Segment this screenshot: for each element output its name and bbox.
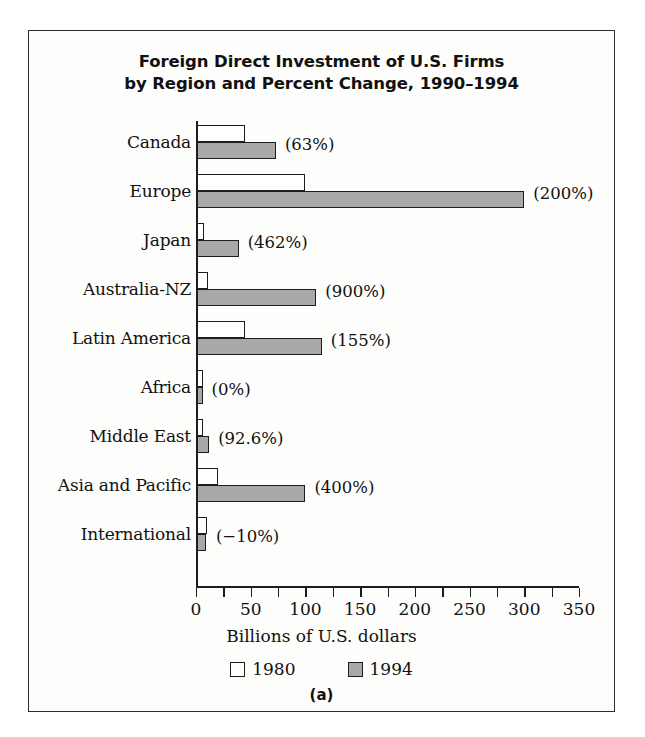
bar-1994: [196, 191, 524, 208]
x-axis-minor-tick: [552, 588, 553, 597]
percent-change-label: (92.6%): [218, 429, 283, 448]
category-row: Japan(462%): [29, 219, 614, 268]
bar-1980: [196, 321, 245, 338]
legend-label: 1994: [370, 659, 413, 679]
x-axis-major-tick: [524, 588, 525, 597]
category-row: Europe(200%): [29, 170, 614, 219]
legend-swatch-icon: [348, 662, 363, 677]
percent-change-label: (−10%): [216, 527, 279, 546]
x-axis-tick-label: 250: [453, 599, 485, 619]
category-label: Europe: [130, 181, 191, 201]
plot-area: Canada(63%)Europe(200%)Japan(462%)Austra…: [29, 121, 614, 586]
percent-change-label: (0%): [212, 380, 251, 399]
bar-1994: [196, 142, 276, 159]
x-axis-minor-tick: [278, 588, 279, 597]
legend-item: 1994: [348, 659, 413, 679]
x-axis-tick-label: 200: [399, 599, 431, 619]
category-row: Canada(63%): [29, 121, 614, 170]
category-label: Australia-NZ: [83, 279, 191, 299]
category-row: Asia and Pacific(400%): [29, 464, 614, 513]
legend-swatch-icon: [230, 662, 245, 677]
category-row: Australia-NZ(900%): [29, 268, 614, 317]
bar-1994: [196, 289, 316, 306]
category-label: Japan: [143, 230, 191, 250]
x-axis-tick-label: 50: [240, 599, 262, 619]
figure-frame: Foreign Direct Investment of U.S. Firms …: [28, 30, 615, 712]
x-axis-minor-tick: [223, 588, 224, 597]
category-row: Latin America(155%): [29, 317, 614, 366]
x-axis-tick-label: 350: [563, 599, 595, 619]
category-row: Africa(0%): [29, 366, 614, 415]
category-label: International: [81, 524, 191, 544]
category-label: Middle East: [90, 426, 191, 446]
x-axis-minor-tick: [497, 588, 498, 597]
x-axis-major-tick: [579, 588, 580, 597]
bar-group: (200%): [196, 174, 616, 215]
x-axis-tick-label: 0: [191, 599, 202, 619]
category-label: Canada: [127, 132, 191, 152]
bar-group: (63%): [196, 125, 616, 166]
category-row: International(−10%): [29, 513, 614, 562]
percent-change-label: (155%): [331, 331, 391, 350]
legend-item: 1980: [230, 659, 295, 679]
bar-group: (400%): [196, 468, 616, 509]
percent-change-label: (400%): [314, 478, 374, 497]
x-axis-major-tick: [415, 588, 416, 597]
chart-title-line-2: by Region and Percent Change, 1990–1994: [29, 73, 614, 95]
x-axis-minor-tick: [442, 588, 443, 597]
x-axis-major-tick: [251, 588, 252, 597]
chart-title: Foreign Direct Investment of U.S. Firms …: [29, 51, 614, 95]
bar-group: (−10%): [196, 517, 616, 558]
category-label: Latin America: [72, 328, 191, 348]
x-axis-minor-tick: [333, 588, 334, 597]
x-axis-major-tick: [196, 588, 197, 597]
category-label: Asia and Pacific: [58, 475, 191, 495]
bar-group: (462%): [196, 223, 616, 264]
legend: 19801994: [29, 659, 614, 679]
bar-1980: [196, 272, 208, 289]
bar-1980: [196, 174, 305, 191]
bar-1994: [196, 436, 209, 453]
x-axis-title: Billions of U.S. dollars: [29, 626, 614, 646]
x-axis: 050100150200250300350: [196, 586, 616, 587]
x-axis-tick-label: 100: [289, 599, 321, 619]
bar-1980: [196, 468, 218, 485]
category-label: Africa: [141, 377, 191, 397]
chart-title-line-1: Foreign Direct Investment of U.S. Firms: [29, 51, 614, 73]
category-row: Middle East(92.6%): [29, 415, 614, 464]
x-axis-major-tick: [470, 588, 471, 597]
bar-1980: [196, 517, 207, 534]
bar-group: (0%): [196, 370, 616, 411]
bar-1980: [196, 125, 245, 142]
y-axis-line: [196, 121, 198, 587]
x-axis-tick-label: 150: [344, 599, 376, 619]
panel-caption: (a): [29, 686, 614, 704]
percent-change-label: (63%): [285, 135, 335, 154]
bar-1994: [196, 338, 322, 355]
percent-change-label: (900%): [325, 282, 385, 301]
percent-change-label: (200%): [533, 184, 593, 203]
bar-group: (900%): [196, 272, 616, 313]
x-axis-tick-label: 300: [508, 599, 540, 619]
x-axis-minor-tick: [388, 588, 389, 597]
x-axis-major-tick: [360, 588, 361, 597]
bar-group: (155%): [196, 321, 616, 362]
legend-label: 1980: [252, 659, 295, 679]
percent-change-label: (462%): [248, 233, 308, 252]
bar-1994: [196, 240, 239, 257]
x-axis-major-tick: [305, 588, 306, 597]
bar-1994: [196, 485, 305, 502]
bar-group: (92.6%): [196, 419, 616, 460]
